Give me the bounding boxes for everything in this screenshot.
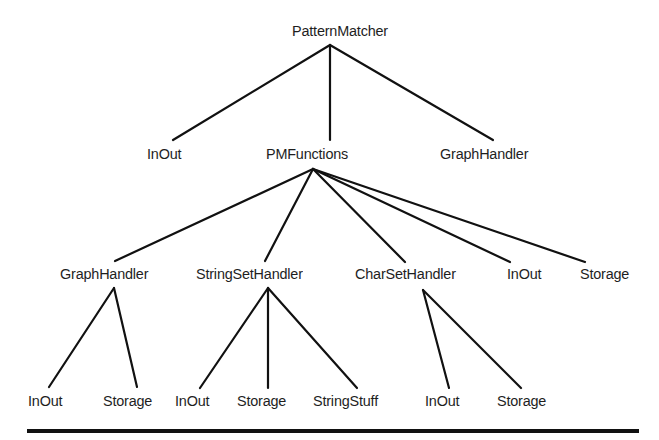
edge-pmfunctions-to-storage <box>313 169 585 262</box>
edge-pmfunctions-to-inout <box>313 169 510 262</box>
node-pmfunctions: PMFunctions <box>266 144 348 164</box>
edge-pmfunctions-to-graphhandler <box>115 169 313 261</box>
edge-stringsethandler-to-stringstuff <box>268 288 357 388</box>
node-storage-l2: Storage <box>580 264 629 284</box>
node-ssh-inout: InOut <box>175 391 209 411</box>
node-csh-inout: InOut <box>425 391 459 411</box>
tree-edges <box>0 0 659 440</box>
edge-stringsethandler-to-inout <box>200 288 268 388</box>
node-gh-storage: Storage <box>103 391 152 411</box>
node-inout-l2: InOut <box>507 264 541 284</box>
node-patternmatcher: PatternMatcher <box>292 21 388 41</box>
edge-charsethandler-to-inout <box>423 290 449 388</box>
module-hierarchy-diagram: PatternMatcher InOut PMFunctions GraphHa… <box>0 0 659 440</box>
edge-graphhandler-to-inout <box>49 288 114 387</box>
node-inout-l1: InOut <box>147 144 181 164</box>
node-graphhandler-l1: GraphHandler <box>440 144 528 164</box>
node-csh-storage: Storage <box>497 391 546 411</box>
bottom-rule-divider <box>27 429 639 433</box>
node-graphhandler-l2: GraphHandler <box>60 264 148 284</box>
edge-charsethandler-to-storage <box>423 290 521 388</box>
edge-pmfunctions-to-charsethandler <box>313 169 405 262</box>
edge-patternmatcher-to-graphhandler <box>330 45 493 140</box>
node-charsethandler: CharSetHandler <box>355 264 456 284</box>
node-gh-inout: InOut <box>28 391 62 411</box>
edge-graphhandler-to-storage <box>114 288 137 387</box>
node-ssh-stringstuff: StringStuff <box>313 391 378 411</box>
node-stringsethandler: StringSetHandler <box>196 264 303 284</box>
edge-patternmatcher-to-inout <box>173 45 330 140</box>
node-ssh-storage: Storage <box>237 391 286 411</box>
edge-pmfunctions-to-stringsethandler <box>265 169 313 261</box>
